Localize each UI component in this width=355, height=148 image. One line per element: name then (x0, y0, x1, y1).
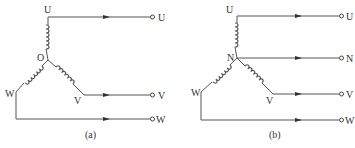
star-connection-diagram: U U O W V V W ( (0, 0, 355, 148)
coil-w-icon (25, 66, 44, 85)
winding-label-w: W (191, 87, 201, 98)
arrow-v-icon (103, 93, 110, 97)
terminal-v (340, 92, 344, 96)
terminal-label-w: W (156, 114, 166, 125)
terminal-w (340, 118, 344, 122)
terminal-v (151, 93, 155, 97)
winding-label-u: U (226, 4, 234, 15)
arrow-n-icon (295, 56, 302, 60)
coil-w-icon (213, 65, 232, 84)
coil-u-icon (235, 23, 238, 47)
coil-v-icon (245, 64, 264, 83)
terminal-label-v: V (346, 89, 354, 100)
coil-v-icon (56, 65, 75, 84)
terminal-label-v: V (158, 90, 166, 101)
terminal-label-n: N (346, 53, 353, 64)
center-node-label: O (37, 52, 44, 63)
panel-b: U U N N W V V (191, 4, 355, 141)
winding-label-u: U (44, 4, 52, 15)
line-w (16, 92, 150, 119)
terminal-u (340, 14, 344, 18)
arrow-w-icon (103, 117, 110, 121)
terminal-label-w: W (345, 115, 355, 126)
coil-u-icon (46, 25, 49, 49)
arrow-w-icon (295, 118, 302, 122)
arrow-u-icon (295, 14, 302, 18)
arrow-v-icon (295, 92, 302, 96)
terminal-label-u: U (158, 12, 166, 23)
terminal-u (151, 15, 155, 19)
caption-a: (a) (85, 129, 96, 141)
winding-label-v: V (266, 95, 274, 106)
panel-a: U U O W V V W ( (5, 4, 166, 141)
terminal-label-u: U (346, 11, 354, 22)
terminal-w (151, 117, 155, 121)
caption-b: (b) (269, 129, 281, 141)
terminal-n (340, 56, 344, 60)
arrow-u-icon (103, 15, 110, 19)
winding-label-w: W (5, 88, 15, 99)
winding-label-v: V (74, 95, 82, 106)
